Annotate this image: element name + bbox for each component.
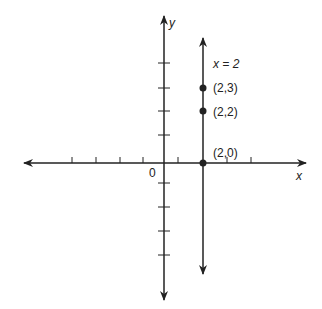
- point-label-2-0: (2,0): [213, 146, 238, 160]
- origin-label: 0: [149, 166, 156, 180]
- point-label-2-3: (2,3): [213, 81, 238, 95]
- point-2-3: [200, 85, 207, 92]
- line-label: x = 2: [212, 57, 240, 71]
- point-2-0: [200, 160, 207, 167]
- point-label-2-2: (2,2): [213, 105, 238, 119]
- y-axis-label: y: [168, 16, 176, 30]
- coordinate-plane: y x 0 x = 2 (2,3) (2,2) (2,0): [0, 0, 322, 309]
- point-2-2: [200, 108, 207, 115]
- x-axis-label: x: [295, 169, 303, 183]
